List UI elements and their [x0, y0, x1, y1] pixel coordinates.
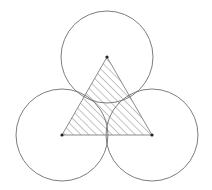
top-vertex-dot: [105, 55, 108, 58]
three-circles-triangle-diagram: [0, 0, 212, 190]
hatched-triangle-region: [62, 57, 152, 135]
bottom-left-vertex-dot: [60, 133, 63, 136]
diagram-canvas: [0, 0, 212, 190]
bottom-right-vertex-dot: [150, 133, 153, 136]
